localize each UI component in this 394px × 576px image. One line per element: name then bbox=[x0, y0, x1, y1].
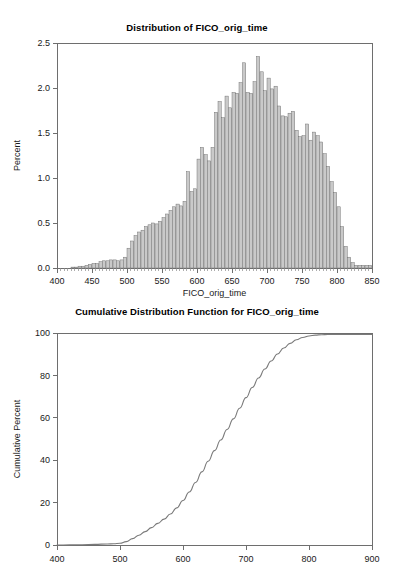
histogram-bar bbox=[365, 265, 368, 268]
histogram-bar bbox=[313, 132, 316, 268]
histogram-bar bbox=[369, 265, 372, 268]
histogram-bar bbox=[334, 192, 337, 268]
histogram-bar bbox=[201, 147, 204, 268]
histogram-bar bbox=[330, 182, 333, 268]
y-axis-title: Percent bbox=[12, 139, 22, 171]
histogram-bar bbox=[358, 265, 361, 268]
histogram-bar bbox=[243, 63, 246, 268]
histogram-bar bbox=[278, 106, 281, 268]
histogram-bar bbox=[204, 155, 207, 268]
x-tick-label: 600 bbox=[189, 276, 204, 286]
histogram-bar bbox=[180, 206, 183, 268]
histogram-bar bbox=[323, 154, 326, 268]
histogram-bar bbox=[176, 204, 179, 268]
histogram-bar bbox=[281, 116, 284, 268]
histogram-bar bbox=[159, 221, 162, 268]
histogram-bar bbox=[229, 108, 232, 268]
histogram-bar bbox=[138, 232, 141, 268]
y-tick-label: 0.0 bbox=[37, 263, 50, 273]
histogram-bar bbox=[194, 189, 197, 268]
histogram-bar bbox=[197, 159, 200, 268]
histogram-bar bbox=[295, 130, 298, 268]
histogram-bar bbox=[253, 82, 256, 268]
histogram-bar bbox=[246, 93, 249, 269]
histogram-bar bbox=[117, 261, 120, 268]
x-tick-label: 700 bbox=[259, 276, 274, 286]
histogram-bar bbox=[271, 89, 274, 268]
y-tick-label: 2.0 bbox=[37, 83, 50, 93]
histogram-bar bbox=[166, 214, 169, 268]
y-tick-label: 0 bbox=[45, 540, 50, 550]
x-tick-label: 700 bbox=[238, 554, 253, 564]
histogram-bar bbox=[218, 102, 221, 269]
x-tick-label: 400 bbox=[49, 276, 64, 286]
histogram-bar bbox=[85, 265, 88, 268]
histogram-bar bbox=[103, 261, 106, 268]
y-tick-label: 0.5 bbox=[37, 218, 50, 228]
histogram-bar bbox=[169, 210, 172, 268]
histogram-bar bbox=[309, 140, 312, 268]
histogram-bar bbox=[71, 267, 74, 268]
x-tick-label: 800 bbox=[301, 554, 316, 564]
histogram-bar bbox=[96, 264, 99, 269]
histogram-bar bbox=[327, 166, 330, 268]
cdf-figure: Cumulative Distribution Function for FIC… bbox=[0, 300, 394, 576]
histogram-bar bbox=[239, 83, 242, 268]
x-tick-label: 750 bbox=[294, 276, 309, 286]
histogram-bar bbox=[222, 118, 225, 268]
histogram-bar bbox=[92, 264, 95, 269]
histogram-bar bbox=[183, 201, 186, 268]
x-tick-label: 900 bbox=[364, 554, 379, 564]
cdf-curve bbox=[57, 334, 372, 545]
x-tick-label: 600 bbox=[175, 554, 190, 564]
histogram-bar bbox=[299, 137, 302, 268]
histogram-bar bbox=[236, 93, 239, 268]
histogram-bar bbox=[148, 225, 151, 268]
histogram-bar bbox=[341, 227, 344, 268]
histogram-bar bbox=[257, 57, 260, 269]
histogram-bar bbox=[89, 264, 92, 268]
histogram-bar bbox=[162, 218, 165, 268]
histogram-bar bbox=[106, 261, 109, 268]
histogram-bar bbox=[274, 86, 277, 268]
histogram-bar bbox=[355, 265, 358, 268]
histogram-bar bbox=[225, 96, 228, 268]
histogram-bar bbox=[288, 113, 291, 268]
histogram-bar bbox=[264, 91, 267, 268]
histogram-figure: Distribution of FICO_orig_time 0.00.51.0… bbox=[0, 0, 394, 300]
histogram-bar bbox=[208, 161, 211, 268]
histogram-bar bbox=[232, 93, 235, 269]
histogram-plot: 0.00.51.01.52.02.54004505005506006507007… bbox=[0, 0, 394, 300]
histogram-bars bbox=[71, 57, 372, 269]
histogram-bar bbox=[260, 72, 263, 268]
histogram-bar bbox=[267, 78, 270, 268]
histogram-bar bbox=[215, 112, 218, 268]
x-tick-label: 650 bbox=[224, 276, 239, 286]
histogram-bar bbox=[124, 257, 127, 268]
histogram-bar bbox=[302, 136, 305, 268]
histogram-bar bbox=[99, 262, 102, 268]
histogram-bar bbox=[78, 266, 81, 268]
y-tick-label: 100 bbox=[35, 328, 50, 338]
x-tick-label: 400 bbox=[49, 554, 64, 564]
x-tick-label: 800 bbox=[329, 276, 344, 286]
x-tick-label: 500 bbox=[119, 276, 134, 286]
histogram-bar bbox=[316, 136, 319, 268]
histogram-bar bbox=[292, 111, 295, 268]
histogram-bar bbox=[348, 257, 351, 268]
x-tick-label: 550 bbox=[154, 276, 169, 286]
histogram-bar bbox=[306, 124, 309, 268]
y-tick-label: 80 bbox=[40, 371, 50, 381]
histogram-bar bbox=[127, 248, 130, 268]
x-tick-label: 500 bbox=[112, 554, 127, 564]
y-tick-label: 40 bbox=[40, 455, 50, 465]
x-tick-label: 850 bbox=[364, 276, 379, 286]
histogram-bar bbox=[152, 223, 155, 268]
histogram-bar bbox=[320, 142, 323, 268]
y-axis-title: Cumulative Percent bbox=[12, 399, 22, 478]
histogram-bar bbox=[190, 192, 193, 269]
histogram-bar bbox=[113, 260, 116, 268]
histogram-bar bbox=[285, 117, 288, 268]
histogram-bar bbox=[173, 207, 176, 268]
histogram-bar bbox=[110, 260, 113, 268]
